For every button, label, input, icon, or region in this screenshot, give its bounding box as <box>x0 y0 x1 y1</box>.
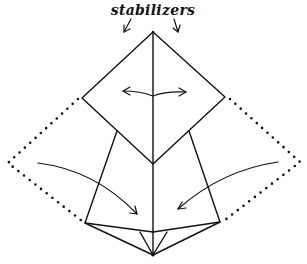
left-fold-arrow-icon <box>38 163 137 214</box>
origami-diagram <box>0 0 307 264</box>
stabilizer-arrow-left-icon <box>124 19 131 32</box>
stabilizer-arrow-right-icon <box>173 19 180 32</box>
right-fold-arrow-icon <box>178 162 278 209</box>
bottom-point <box>151 253 154 256</box>
top-apex-point <box>152 31 154 33</box>
right-dotted-outline <box>225 99 300 220</box>
spread-arrow-icon <box>123 87 186 96</box>
left-dotted-outline <box>8 99 82 221</box>
left-flap <box>85 131 153 255</box>
right-flap <box>153 131 220 255</box>
